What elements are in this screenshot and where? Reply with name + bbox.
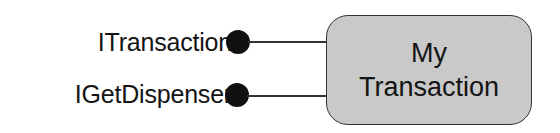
component-box: My Transaction xyxy=(326,15,532,125)
interface-lollipop-icon xyxy=(226,30,250,54)
component-title-line1: My xyxy=(411,36,447,70)
interface-label-itransaction: ITransaction xyxy=(98,30,232,55)
interface-lollipop-icon xyxy=(225,83,249,107)
component-title-line2: Transaction xyxy=(359,70,499,104)
connector-line xyxy=(247,95,328,97)
connector-line xyxy=(248,41,328,43)
interface-label-igetdispenser: IGetDispenser xyxy=(75,82,232,107)
